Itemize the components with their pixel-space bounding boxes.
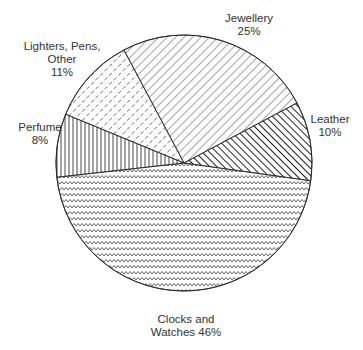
label-leather: Leather 10% [310,113,349,139]
label-clocks-and-watches: Clocks and Watches 46% [151,313,222,339]
label-perfume: Perfume 8% [18,121,61,147]
label-lighters-pens-other: Lighters, Pens, Other 11% [24,40,101,79]
slice-clocks-and-watches [57,163,311,291]
label-jewellery: Jewellery 25% [225,12,273,38]
